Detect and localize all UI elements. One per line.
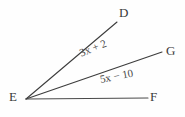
point-label-g: G [166, 44, 175, 57]
angle-diagram: D G F E 3x + 2 5x − 10 [0, 0, 185, 117]
point-label-d: D [119, 6, 128, 19]
point-label-f: F [150, 90, 157, 103]
geometry-figure [0, 0, 185, 117]
ray-eg-line [26, 52, 162, 99]
ray-ef-line [26, 98, 148, 99]
point-label-e: E [9, 90, 17, 103]
ray-ed-line [26, 22, 117, 99]
